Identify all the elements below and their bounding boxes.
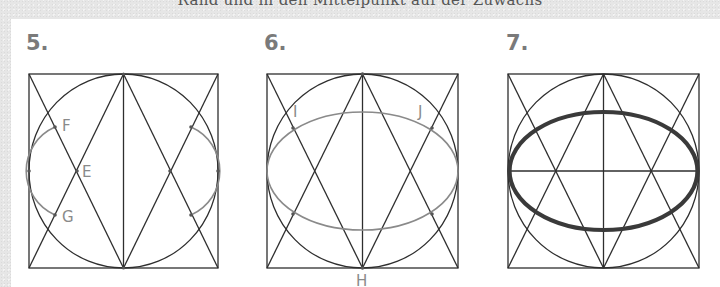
figure-7-construction — [0, 0, 720, 287]
